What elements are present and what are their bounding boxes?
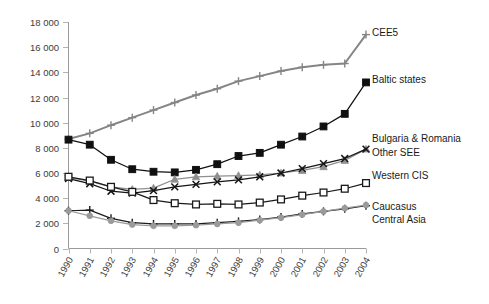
data-point-square-open	[129, 188, 136, 195]
data-point-square-filled	[129, 166, 136, 173]
data-point-square-open	[363, 180, 370, 187]
data-point-square-open	[150, 197, 157, 204]
y-tick-label: 6 000	[35, 168, 59, 179]
data-point-circle-filled	[87, 213, 93, 219]
y-tick-label: 2 000	[35, 218, 59, 229]
series-label: Baltic states	[372, 74, 426, 85]
series-label: Bulgaria & Romania	[372, 133, 461, 144]
data-point-square-filled	[108, 156, 115, 163]
data-point-circle-filled	[193, 222, 199, 228]
y-tick-label: 18 000	[30, 17, 59, 28]
data-point-square-open	[65, 173, 72, 180]
data-point-square-open	[214, 200, 221, 207]
data-point-square-filled	[320, 123, 327, 130]
data-point-circle-filled	[108, 218, 114, 224]
data-point-square-filled	[193, 166, 200, 173]
series-label: Caucasus	[372, 201, 416, 212]
data-point-square-filled	[299, 133, 306, 140]
y-tick-label: 4 000	[35, 193, 59, 204]
data-point-square-filled	[150, 168, 157, 175]
data-point-circle-filled	[129, 222, 135, 228]
series-label: CEE5	[372, 27, 399, 38]
series-label: Western CIS	[372, 170, 429, 181]
data-point-square-filled	[65, 136, 72, 143]
data-point-circle-filled	[321, 208, 327, 214]
data-point-circle-filled	[257, 217, 263, 223]
data-point-circle-filled	[342, 205, 348, 211]
data-point-square-open	[171, 200, 178, 207]
data-point-square-open	[278, 196, 285, 203]
data-point-square-open	[235, 201, 242, 208]
data-point-square-filled	[256, 149, 263, 156]
data-point-circle-filled	[236, 220, 242, 226]
chart-container: 02 0004 0006 0008 00010 00012 00014 0001…	[0, 0, 489, 304]
data-point-circle-filled	[214, 221, 220, 227]
data-point-circle-filled	[299, 212, 305, 218]
data-point-square-open	[193, 201, 200, 208]
data-point-square-open	[86, 177, 93, 184]
data-point-square-open	[299, 192, 306, 199]
data-point-square-filled	[363, 79, 370, 86]
data-point-circle-filled	[363, 202, 369, 208]
data-point-circle-filled	[151, 223, 157, 229]
data-point-square-filled	[214, 161, 221, 168]
data-point-circle-filled	[66, 208, 72, 214]
data-point-square-open	[320, 189, 327, 196]
data-point-circle-filled	[172, 223, 178, 229]
data-point-square-open	[108, 183, 115, 190]
data-point-square-open	[256, 199, 263, 206]
series-label: Other SEE	[372, 147, 420, 158]
y-tick-label: 14 000	[30, 67, 59, 78]
y-tick-label: 10 000	[30, 118, 59, 129]
data-point-square-filled	[86, 141, 93, 148]
data-point-square-filled	[171, 169, 178, 176]
data-point-square-filled	[341, 110, 348, 117]
data-point-square-filled	[235, 153, 242, 160]
series-label: Central Asia	[372, 214, 426, 225]
line-chart: 02 0004 0006 0008 00010 00012 00014 0001…	[0, 0, 489, 304]
y-tick-label: 16 000	[30, 42, 59, 53]
data-point-square-filled	[278, 141, 285, 148]
data-point-square-open	[341, 185, 348, 192]
y-tick-label: 0	[54, 244, 59, 255]
y-tick-label: 8 000	[35, 143, 59, 154]
data-point-circle-filled	[278, 215, 284, 221]
y-tick-label: 12 000	[30, 93, 59, 104]
